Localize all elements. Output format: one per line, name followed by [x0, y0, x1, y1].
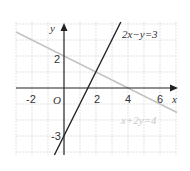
- y-axis-label: y: [49, 22, 55, 34]
- coordinate-plane: y x O -2 2 4 6 2 -3 2x−y=3 x+2y=4: [0, 0, 190, 171]
- x-axis-arrow-icon: [170, 85, 178, 92]
- equation-label-gray: x+2y=4: [120, 114, 157, 126]
- equation-label-dark: 2x−y=3: [122, 28, 158, 40]
- y-tick-minus-3: -3: [51, 130, 61, 142]
- x-tick-4: 4: [125, 93, 131, 105]
- x-tick-6: 6: [157, 93, 163, 105]
- y-tick-2: 2: [54, 53, 60, 65]
- x-tick-2: 2: [94, 93, 100, 105]
- origin-label: O: [53, 94, 61, 106]
- x-axis-label: x: [171, 93, 177, 105]
- x-tick-minus-2: -2: [26, 93, 36, 105]
